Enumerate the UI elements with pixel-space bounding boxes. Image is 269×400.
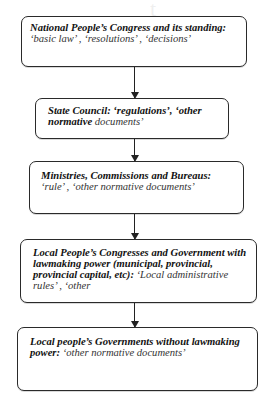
node-national-peoples-congress: National People’s Congress and its stand… bbox=[21, 16, 247, 67]
node-state-council: State Council: ‘regulations’, ‘other nor… bbox=[35, 98, 229, 139]
node-title: Ministries, Commissions and Bureaus: bbox=[41, 170, 211, 181]
node-title: National People’s Congress and its stand… bbox=[30, 22, 226, 33]
node-document-types: ‘basic law’ , ‘resolutions’ , ‘decisions… bbox=[30, 33, 191, 44]
node-local-governments-without-lawmaking-power: Local people’s Governments without lawma… bbox=[17, 327, 258, 391]
arrow-down-icon bbox=[134, 214, 135, 239]
node-document-types: documents’ bbox=[92, 116, 143, 127]
arrow-down-icon bbox=[134, 139, 135, 161]
arrow-down-icon bbox=[134, 303, 135, 327]
node-ministries-commissions-bureaus: Ministries, Commissions and Bureaus: ‘ru… bbox=[29, 161, 244, 214]
node-document-types: ‘other normative documents’ bbox=[60, 347, 186, 358]
arrow-down-icon bbox=[134, 67, 135, 98]
node-document-types: ‘rule’ , ‘other normative documents’ bbox=[41, 181, 195, 192]
node-local-peoples-congresses-with-lawmaking-power: Local People’s Congresses and Government… bbox=[20, 239, 257, 303]
